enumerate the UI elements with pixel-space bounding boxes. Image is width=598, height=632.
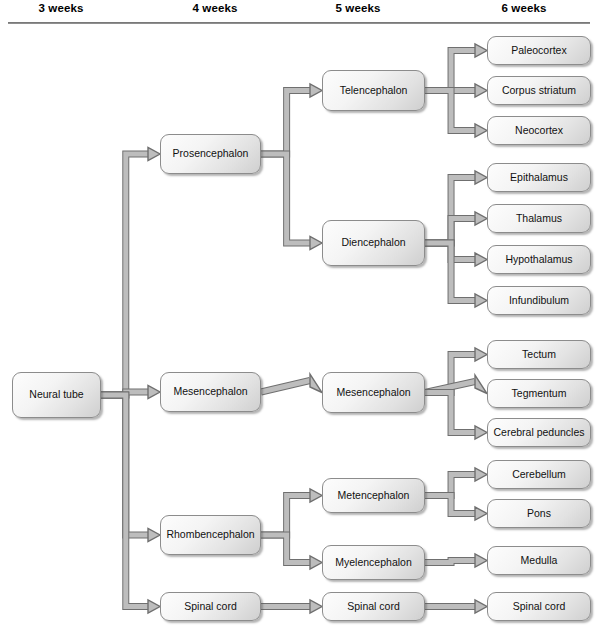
connector-telencephalon-to-neocortex [425,91,487,138]
connector-spinal-cord-5w-to-spinal-cord-6w [425,600,487,613]
node-label: Infundibulum [509,295,569,307]
node-label: Cerebral peduncles [493,427,584,439]
connector-diencephalon-to-infundibulum [425,243,487,307]
node-telencephalon[interactable]: Telencephalon [322,70,425,111]
node-rhombencephalon[interactable]: Rhombencephalon [160,515,261,555]
node-cerebellum[interactable]: Cerebellum [487,460,591,489]
node-label: Myelencephalon [335,557,411,569]
node-label: Medulla [521,555,558,567]
node-prosencephalon[interactable]: Prosencephalon [160,134,261,174]
node-epithalamus[interactable]: Epithalamus [487,163,591,192]
node-label: Mesencephalon [336,387,410,399]
node-label: Hypothalamus [505,254,572,266]
node-label: Pons [527,508,551,520]
node-infundibulum[interactable]: Infundibulum [487,286,591,315]
node-tectum[interactable]: Tectum [487,340,591,369]
connector-rhombencephalon-to-metencephalon [261,489,322,535]
diagram-canvas: 3 weeks4 weeks5 weeks6 weeks Neural tube… [0,0,598,632]
node-label: Mesencephalon [173,386,247,398]
node-label: Tectum [522,349,556,361]
node-paleocortex[interactable]: Paleocortex [487,36,591,65]
connector-neural-tube-to-prosencephalon [101,148,160,396]
node-label: Paleocortex [511,45,566,57]
connector-neural-tube-to-spinal-cord-4w [101,395,160,613]
node-label: Spinal cord [347,601,400,613]
connector-metencephalon-to-pons [425,496,487,521]
node-tegmentum[interactable]: Tegmentum [487,379,591,408]
node-neural-tube[interactable]: Neural tube [12,372,101,418]
connector-diencephalon-to-epithalamus [425,171,487,243]
node-medulla[interactable]: Medulla [487,546,591,575]
node-pons[interactable]: Pons [487,499,591,528]
connector-mesencephalon-5w-to-cerebral-peduncles [425,393,487,440]
node-label: Prosencephalon [173,148,249,160]
node-label: Neural tube [29,389,83,401]
node-myelencephalon[interactable]: Myelencephalon [322,545,425,580]
node-spinal-cord-4w[interactable]: Spinal cord [160,592,261,621]
connector-neural-tube-to-rhombencephalon [101,395,160,542]
node-hypothalamus[interactable]: Hypothalamus [487,245,591,274]
node-label: Spinal cord [184,601,237,613]
node-metencephalon[interactable]: Metencephalon [322,478,425,513]
node-label: Neocortex [515,125,563,137]
node-label: Diencephalon [341,237,405,249]
node-diencephalon[interactable]: Diencephalon [322,220,425,266]
node-label: Metencephalon [338,490,410,502]
node-label: Epithalamus [510,172,568,184]
connector-rhombencephalon-to-myelencephalon [261,535,322,569]
node-label: Spinal cord [513,601,566,613]
connector-myelencephalon-to-medulla [425,554,487,567]
node-label: Rhombencephalon [166,529,254,541]
node-label: Corpus striatum [502,85,576,97]
node-corpus-striatum[interactable]: Corpus striatum [487,76,591,105]
node-neocortex[interactable]: Neocortex [487,116,591,145]
connector-spinal-cord-4w-to-spinal-cord-5w [261,600,322,613]
connector-diencephalon-to-thalamus [425,212,487,243]
node-label: Cerebellum [512,469,566,481]
node-spinal-cord-6w[interactable]: Spinal cord [487,592,591,621]
node-spinal-cord-5w[interactable]: Spinal cord [322,592,425,621]
node-mesencephalon-5w[interactable]: Mesencephalon [322,372,425,413]
node-mesencephalon-4w[interactable]: Mesencephalon [160,372,261,412]
node-cerebral-peduncles[interactable]: Cerebral peduncles [487,418,591,447]
connector-metencephalon-to-cerebellum [425,468,487,496]
node-label: Telencephalon [340,85,408,97]
node-label: Thalamus [516,213,562,225]
connector-prosencephalon-to-telencephalon [261,84,322,154]
connector-prosencephalon-to-diencephalon [261,154,322,250]
node-label: Tegmentum [512,388,567,400]
connector-mesencephalon-4w-to-mesencephalon-5w [261,374,322,393]
node-thalamus[interactable]: Thalamus [487,204,591,233]
connector-telencephalon-to-paleocortex [425,44,487,91]
